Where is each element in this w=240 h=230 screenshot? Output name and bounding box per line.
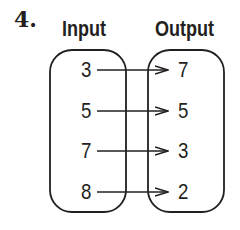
- mapping-diagram: [0, 0, 240, 230]
- output-value: 5: [178, 100, 188, 122]
- output-value: 7: [178, 59, 188, 81]
- input-value: 7: [81, 140, 91, 162]
- input-value: 8: [81, 181, 91, 203]
- output-value: 3: [178, 140, 188, 162]
- input-value: 3: [81, 59, 91, 81]
- output-value: 2: [178, 181, 188, 203]
- input-value: 5: [81, 100, 91, 122]
